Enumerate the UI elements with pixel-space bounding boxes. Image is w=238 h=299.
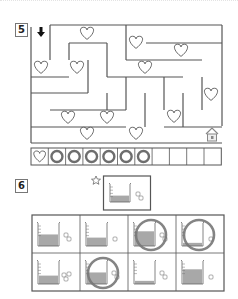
sugar-cube-icon xyxy=(62,273,66,277)
water-fill xyxy=(135,281,154,284)
sugar-cube-icon xyxy=(112,271,116,275)
beaker-question xyxy=(0,0,238,299)
sugar-cube-icon xyxy=(160,233,164,237)
sugar-cube-icon xyxy=(163,275,167,279)
sugar-cube-icon xyxy=(113,237,117,241)
water-fill xyxy=(39,234,58,246)
sugar-cube-icon xyxy=(160,271,164,275)
sugar-cube-icon xyxy=(64,233,68,237)
sugar-cube-icon xyxy=(67,237,71,241)
water-fill xyxy=(111,196,129,202)
water-fill xyxy=(87,238,106,246)
reference-beaker-frame xyxy=(104,176,151,210)
water-fill xyxy=(39,276,58,284)
star-icon xyxy=(92,176,101,184)
water-fill xyxy=(183,269,202,284)
sugar-cube-icon xyxy=(64,277,68,281)
sugar-cube-icon xyxy=(136,192,140,196)
sugar-cube-icon xyxy=(209,275,213,279)
sugar-cube-icon xyxy=(139,196,143,200)
sugar-cube-icon xyxy=(67,272,71,276)
